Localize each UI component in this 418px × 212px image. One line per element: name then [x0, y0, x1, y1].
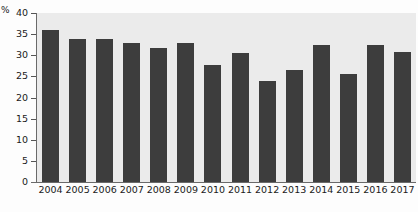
y-axis-tick-label: 15: [16, 114, 28, 124]
bar-chart: % 0510152025303540 200420052006200720082…: [0, 0, 418, 212]
y-axis-tick-label: 20: [16, 93, 28, 103]
bar: [232, 53, 249, 182]
bar: [394, 52, 411, 182]
bar: [340, 74, 357, 182]
bar: [259, 81, 276, 182]
bar: [42, 30, 59, 182]
bar: [286, 70, 303, 182]
y-axis-tick-label: 5: [22, 156, 28, 166]
x-axis-tick-label: 2012: [255, 185, 279, 195]
x-axis-line: [31, 182, 416, 183]
x-axis-tick-label: 2008: [147, 185, 171, 195]
x-axis-tick-label: 2010: [201, 185, 225, 195]
x-axis-tick-label: 2007: [120, 185, 144, 195]
y-axis-tick-label: 35: [16, 29, 28, 39]
x-axis-tick-label: 2016: [363, 185, 387, 195]
x-axis-tick-label: 2009: [174, 185, 198, 195]
y-axis-tick-label: 25: [16, 72, 28, 82]
y-axis-tick-label: 40: [16, 8, 28, 18]
bar: [177, 43, 194, 182]
x-axis-tick-label: 2006: [93, 185, 117, 195]
y-axis-tick-label: 10: [16, 135, 28, 145]
y-axis-tick-label: 0: [22, 177, 28, 187]
bar: [150, 48, 167, 182]
x-axis-tick-label: 2017: [390, 185, 414, 195]
x-axis-tick-label: 2013: [282, 185, 306, 195]
bar: [367, 45, 384, 182]
y-axis-tick-labels: 0510152025303540: [8, 0, 28, 212]
plot-area: [37, 13, 416, 182]
bar: [313, 45, 330, 182]
x-axis-tick-label: 2015: [336, 185, 360, 195]
x-axis-tick-label: 2011: [228, 185, 252, 195]
x-axis-tick-labels: 2004200520062007200820092010201120122013…: [37, 185, 416, 205]
bar: [123, 43, 140, 182]
x-axis-tick-label: 2004: [38, 185, 62, 195]
bar: [96, 39, 113, 182]
y-axis-tick-label: 30: [16, 51, 28, 61]
x-axis-tick-label: 2005: [66, 185, 90, 195]
bar: [204, 65, 221, 182]
x-axis-tick-label: 2014: [309, 185, 333, 195]
bar: [69, 39, 86, 182]
